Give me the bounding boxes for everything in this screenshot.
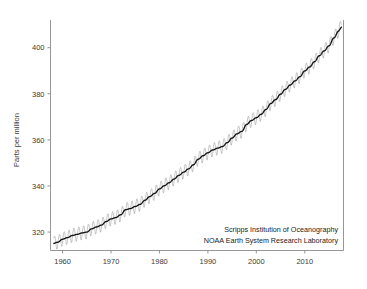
credit-line-scripps: Scripps Institution of Oceanography	[224, 225, 338, 234]
x-tick-label: 1990	[200, 257, 217, 266]
x-tick-label: 1980	[151, 257, 168, 266]
x-tick-label: 2010	[296, 257, 313, 266]
y-tick-label: 360	[32, 136, 45, 145]
x-tick-label: 1970	[103, 257, 120, 266]
credit-line-noaa: NOAA Earth System Research Laboratory	[204, 236, 339, 245]
y-axis-title: Parts per million	[12, 113, 21, 167]
chart-figure: 320340360380400 196019701980199020002010…	[0, 0, 367, 289]
keeling-curve-chart: 320340360380400 196019701980199020002010…	[0, 0, 367, 289]
y-tick-label: 380	[32, 90, 45, 99]
x-tick-label: 1960	[54, 257, 71, 266]
y-axis-label: Parts per million	[12, 113, 21, 167]
y-tick-label: 400	[32, 43, 45, 52]
x-tick-label: 2000	[248, 257, 265, 266]
y-tick-label: 340	[32, 182, 45, 191]
y-tick-label: 320	[32, 228, 45, 237]
plot-background	[0, 0, 367, 289]
